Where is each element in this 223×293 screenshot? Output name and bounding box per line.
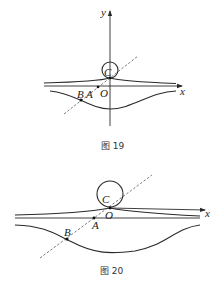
label-c: C bbox=[104, 66, 112, 78]
label-b: B bbox=[64, 226, 71, 238]
label-o: O bbox=[100, 87, 108, 99]
label-c: C bbox=[102, 193, 110, 205]
figure-19: y x C O A B 图 19 bbox=[44, 6, 185, 151]
caption-figure-20: 图 20 bbox=[100, 266, 124, 276]
dashed-line bbox=[64, 56, 138, 114]
x-axis-label: x bbox=[179, 85, 185, 97]
label-o: O bbox=[105, 209, 113, 221]
x-axis-label: x bbox=[204, 207, 210, 219]
dashed-line bbox=[40, 175, 152, 258]
lower-field-curve bbox=[50, 91, 176, 109]
label-b: B bbox=[77, 88, 84, 100]
label-a: A bbox=[91, 219, 99, 231]
lower-field-curve bbox=[15, 225, 200, 253]
figure-20: x C O A B 图 20 bbox=[15, 175, 210, 276]
caption-figure-19: 图 19 bbox=[101, 141, 125, 151]
label-a: A bbox=[85, 88, 93, 100]
loop-circle bbox=[97, 181, 123, 207]
point-a bbox=[97, 86, 100, 89]
physics-diagram: y x C O A B 图 19 x C O A B 图 20 bbox=[0, 0, 223, 293]
y-axis-label: y bbox=[100, 6, 106, 18]
